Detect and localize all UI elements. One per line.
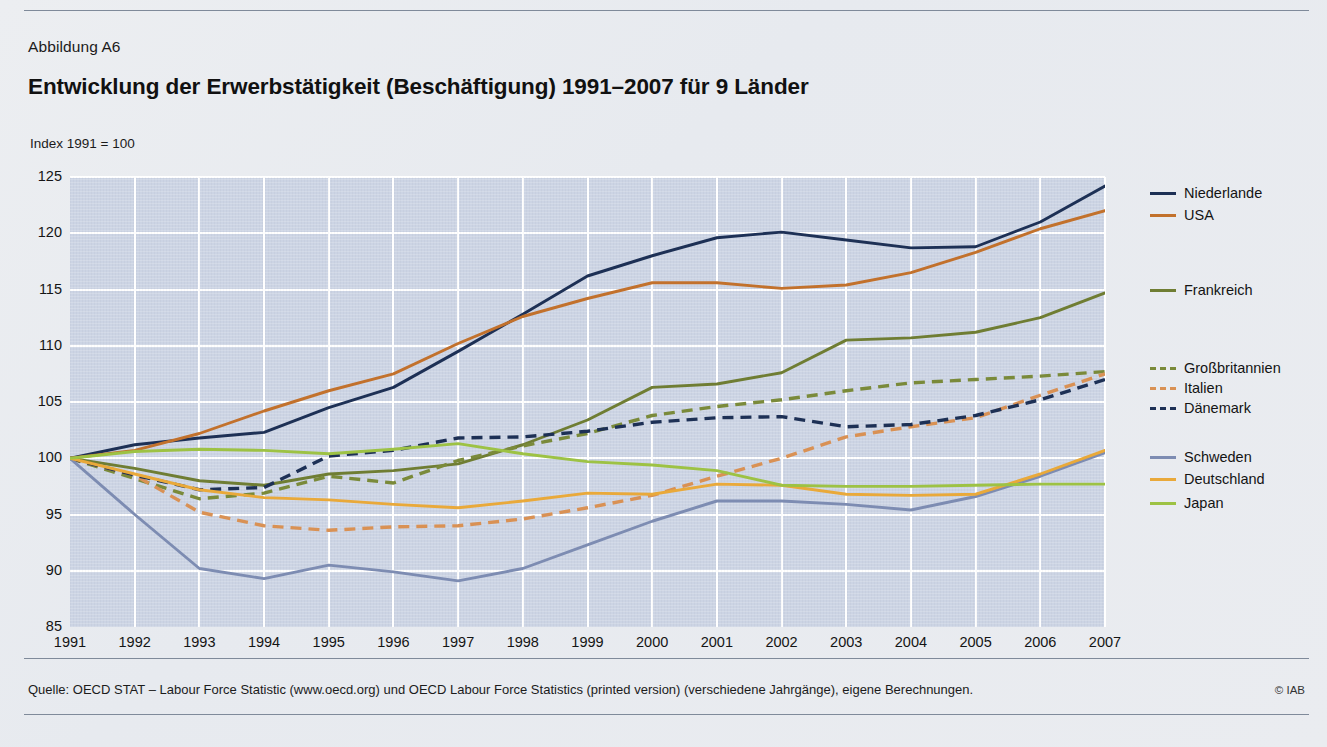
x-tick-label: 1993 <box>164 634 234 650</box>
x-tick-label: 2006 <box>1005 634 1075 650</box>
divider-middle <box>24 658 1309 659</box>
x-tick-label: 1995 <box>294 634 364 650</box>
legend-item-label: Deutschland <box>1184 471 1265 487</box>
x-tick-label: 1996 <box>358 634 428 650</box>
legend-item-label: Dänemark <box>1184 400 1251 416</box>
legend-item-label: Italien <box>1184 380 1223 396</box>
x-tick-label: 1994 <box>229 634 299 650</box>
legend-swatch-icon <box>1150 456 1176 459</box>
x-tick-label: 1998 <box>488 634 558 650</box>
legend-item-gro-britannien[interactable]: Großbritannien <box>1150 358 1281 378</box>
legend-item-label: Japan <box>1184 495 1224 511</box>
y-tick-label: 105 <box>16 393 62 409</box>
x-tick-label: 2004 <box>876 634 946 650</box>
y-axis-note: Index 1991 = 100 <box>30 136 135 151</box>
x-tick-label: 2007 <box>1070 634 1140 650</box>
chart-legend: NiederlandeUSAFrankreichGroßbritannienIt… <box>1150 170 1325 570</box>
divider-top <box>24 10 1309 11</box>
legend-swatch-icon <box>1150 407 1176 410</box>
x-tick-label: 2005 <box>941 634 1011 650</box>
legend-item-japan[interactable]: Japan <box>1150 493 1224 513</box>
copyright-note: © IAB <box>1275 684 1305 696</box>
legend-item-usa[interactable]: USA <box>1150 205 1214 225</box>
legend-swatch-icon <box>1150 502 1176 505</box>
y-tick-label: 110 <box>16 337 62 353</box>
source-note: Quelle: OECD STAT – Labour Force Statist… <box>28 682 973 697</box>
legend-swatch-icon <box>1150 367 1176 370</box>
x-tick-label: 2003 <box>811 634 881 650</box>
series-line-italien <box>70 374 1105 530</box>
legend-item-italien[interactable]: Italien <box>1150 378 1223 398</box>
legend-swatch-icon <box>1150 478 1176 481</box>
y-tick-label: 90 <box>16 562 62 578</box>
y-tick-label: 125 <box>16 168 62 184</box>
series-line-japan <box>70 444 1105 487</box>
legend-item-label: Frankreich <box>1184 282 1253 298</box>
legend-item-schweden[interactable]: Schweden <box>1150 447 1252 467</box>
series-line-deutschland <box>70 450 1105 507</box>
legend-swatch-icon <box>1150 289 1176 292</box>
series-line-frankreich <box>70 293 1105 485</box>
legend-item-deutschland[interactable]: Deutschland <box>1150 469 1265 489</box>
x-tick-label: 2002 <box>747 634 817 650</box>
legend-swatch-icon <box>1150 214 1176 217</box>
x-tick-label: 2001 <box>682 634 752 650</box>
x-tick-label: 1999 <box>553 634 623 650</box>
x-tick-label: 1992 <box>100 634 170 650</box>
figure-number: Abbildung A6 <box>28 38 121 56</box>
x-tick-label: 1991 <box>35 634 105 650</box>
x-tick-label: 1997 <box>423 634 493 650</box>
y-tick-label: 85 <box>16 618 62 634</box>
legend-item-label: Schweden <box>1184 449 1252 465</box>
x-axis-ticks: 1991199219931994199519961997199819992000… <box>70 634 1105 658</box>
series-line-niederlande <box>70 186 1105 458</box>
figure-panel: Abbildung A6 Entwicklung der Erwerbstäti… <box>0 0 1327 747</box>
plot-area <box>70 177 1105 627</box>
legend-item-d-nemark[interactable]: Dänemark <box>1150 398 1251 418</box>
legend-item-niederlande[interactable]: Niederlande <box>1150 183 1262 203</box>
y-tick-label: 120 <box>16 224 62 240</box>
legend-item-label: Großbritannien <box>1184 360 1281 376</box>
chart-lines <box>70 177 1105 627</box>
legend-item-label: Niederlande <box>1184 185 1262 201</box>
legend-swatch-icon <box>1150 387 1176 390</box>
legend-item-label: USA <box>1184 207 1214 223</box>
x-tick-label: 2000 <box>617 634 687 650</box>
divider-bottom <box>24 714 1309 715</box>
y-tick-label: 100 <box>16 449 62 465</box>
legend-swatch-icon <box>1150 192 1176 195</box>
page-title: Entwicklung der Erwerbstätigkeit (Beschä… <box>28 74 809 100</box>
y-axis-ticks: 859095100105110115120125 <box>6 177 62 627</box>
y-tick-label: 115 <box>16 281 62 297</box>
legend-item-frankreich[interactable]: Frankreich <box>1150 280 1253 300</box>
y-tick-label: 95 <box>16 506 62 522</box>
